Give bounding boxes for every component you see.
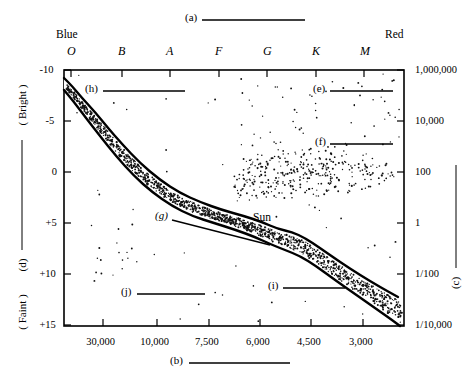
stipple-dot bbox=[152, 179, 153, 180]
stipple-dot bbox=[125, 158, 126, 159]
giant-star-point bbox=[348, 183, 349, 184]
left-tick-label-0: 0 bbox=[52, 167, 57, 178]
stipple-dot bbox=[398, 313, 400, 315]
stipple-dot bbox=[204, 214, 205, 215]
giant-star-point bbox=[281, 192, 282, 193]
stipple-dot bbox=[164, 192, 165, 193]
giant-star-point bbox=[295, 190, 297, 192]
stipple-dot bbox=[261, 234, 263, 236]
supergiant-sparse-point bbox=[357, 82, 359, 84]
stipple-dot bbox=[370, 297, 372, 299]
stipple-dot bbox=[319, 261, 320, 262]
stipple-dot bbox=[170, 198, 172, 200]
giant-star-point bbox=[349, 191, 350, 192]
giant-star-point bbox=[251, 195, 252, 196]
stipple-dot bbox=[396, 304, 398, 306]
stipple-dot bbox=[384, 292, 385, 293]
giant-star-point bbox=[369, 174, 371, 176]
stipple-dot bbox=[289, 247, 291, 249]
stipple-dot bbox=[175, 202, 177, 204]
field-sparse-point bbox=[166, 171, 168, 173]
stipple-dot bbox=[95, 122, 97, 124]
stipple-dot bbox=[172, 195, 174, 197]
stipple-dot bbox=[191, 202, 192, 203]
stipple-dot bbox=[235, 219, 237, 221]
stipple-dot bbox=[186, 208, 188, 210]
white-dwarf-sparse-point bbox=[118, 252, 120, 254]
stipple-dot bbox=[380, 296, 381, 297]
giant-star-point bbox=[358, 167, 360, 169]
stipple-dot bbox=[278, 240, 279, 241]
giant-star-point bbox=[257, 167, 259, 169]
giant-star-point bbox=[350, 165, 351, 166]
giant-star-point bbox=[294, 166, 296, 168]
stipple-dot bbox=[226, 214, 228, 216]
giant-star-point bbox=[351, 185, 353, 187]
stipple-dot bbox=[301, 242, 302, 243]
left-tick-label-+15: +15 bbox=[39, 320, 55, 331]
stipple-dot bbox=[324, 264, 325, 265]
stipple-dot bbox=[327, 262, 329, 264]
stipple-dot bbox=[387, 300, 389, 302]
stipple-dot bbox=[313, 249, 315, 251]
stipple-dot bbox=[381, 297, 382, 298]
giant-star-point bbox=[378, 177, 380, 179]
giant-star-point bbox=[308, 170, 310, 172]
top-tick-label-B: B bbox=[118, 45, 125, 57]
giant-star-point bbox=[310, 174, 312, 176]
giant-star-point bbox=[365, 166, 367, 168]
stipple-dot bbox=[274, 231, 275, 232]
white-dwarf-sparse-point bbox=[122, 259, 124, 261]
giant-star-point bbox=[304, 173, 305, 174]
stipple-dot bbox=[190, 208, 191, 209]
stipple-dot bbox=[257, 233, 259, 235]
white-dwarf-sparse-point bbox=[97, 257, 99, 259]
stipple-dot bbox=[331, 273, 333, 275]
stipple-dot bbox=[93, 116, 95, 118]
giant-star-point bbox=[278, 161, 279, 162]
stipple-dot bbox=[352, 276, 353, 277]
stipple-dot bbox=[179, 197, 181, 199]
callout-label-h: (h) bbox=[85, 83, 98, 94]
stipple-dot bbox=[113, 145, 115, 147]
stipple-dot bbox=[101, 131, 102, 132]
giant-star-point bbox=[330, 160, 332, 162]
stipple-dot bbox=[134, 163, 136, 165]
stipple-dot bbox=[270, 229, 271, 230]
stipple-dot bbox=[331, 271, 333, 273]
stipple-dot bbox=[255, 228, 256, 229]
stipple-dot bbox=[222, 214, 224, 216]
stipple-dot bbox=[217, 216, 219, 218]
stipple-dot bbox=[296, 241, 298, 243]
field-sparse-point bbox=[198, 303, 200, 305]
stipple-dot bbox=[318, 254, 320, 256]
supergiant-sparse-point bbox=[310, 148, 312, 150]
stipple-dot bbox=[211, 217, 213, 219]
stipple-dot bbox=[219, 213, 221, 215]
stipple-dot bbox=[269, 230, 270, 231]
giant-star-point bbox=[325, 175, 327, 177]
stipple-dot bbox=[334, 275, 335, 276]
field-sparse-point bbox=[243, 158, 245, 160]
giant-star-point bbox=[303, 177, 305, 179]
stipple-dot bbox=[334, 267, 336, 269]
giant-star-point bbox=[372, 158, 374, 160]
giant-star-point bbox=[273, 182, 274, 183]
stipple-dot bbox=[267, 234, 269, 236]
giant-star-point bbox=[289, 172, 291, 174]
stipple-dot bbox=[109, 144, 111, 146]
stipple-dot bbox=[306, 249, 308, 251]
giant-star-point bbox=[239, 197, 240, 198]
stipple-dot bbox=[151, 176, 153, 178]
field-sparse-point bbox=[97, 190, 98, 191]
stipple-dot bbox=[306, 245, 307, 246]
giant-star-point bbox=[311, 164, 313, 166]
giant-star-point bbox=[302, 163, 304, 165]
supergiant-sparse-point bbox=[354, 104, 355, 105]
hr-diagram-figure: BlueRedOBAFGKM-10-50+5+10+151,000,00010,… bbox=[0, 0, 474, 380]
stipple-dot bbox=[296, 247, 298, 249]
giant-star-point bbox=[326, 163, 328, 165]
giant-star-point bbox=[317, 173, 319, 175]
callout-label-f: (f) bbox=[315, 136, 326, 147]
stipple-dot bbox=[371, 287, 372, 288]
